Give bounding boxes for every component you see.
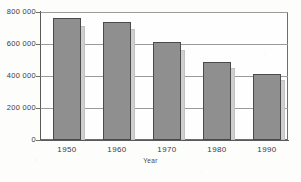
y-axis-label-800000: 800 000: [0, 8, 36, 16]
gridline-800000: [41, 12, 288, 13]
y-tick-200000: [36, 108, 41, 109]
bar-1950: [53, 18, 81, 140]
y-axis-label-200000: 200 000: [0, 104, 36, 112]
y-axis-label-600000: 600 000: [0, 40, 36, 48]
bar-1970: [153, 42, 181, 140]
y-tick-600000: [36, 44, 41, 45]
y-tick-0: [36, 140, 41, 141]
x-axis-label-1950: 1950: [47, 145, 87, 154]
x-axis-label-1970: 1970: [147, 145, 187, 154]
bar-1960: [103, 22, 131, 140]
bar-chart: 800 000 600 000 400 000 200 000 0 1950 1…: [0, 0, 301, 182]
x-axis-line: [40, 140, 289, 141]
x-axis-label-1980: 1980: [197, 145, 237, 154]
y-tick-400000: [36, 76, 41, 77]
x-axis-label-1960: 1960: [97, 145, 137, 154]
y-tick-800000: [36, 12, 41, 13]
bar-1990: [253, 74, 281, 140]
bar-1980: [203, 62, 231, 140]
y-axis-label-0: 0: [0, 136, 36, 144]
x-axis-label-1990: 1990: [247, 145, 287, 154]
x-axis-title: Year: [0, 157, 301, 164]
y-axis-label-400000: 400 000: [0, 72, 36, 80]
